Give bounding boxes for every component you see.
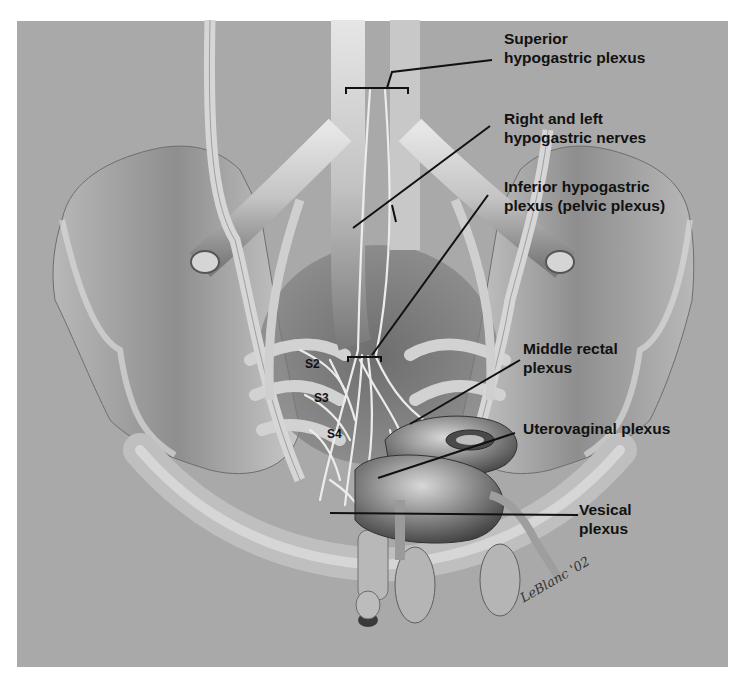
label-line: Middle rectal [523,339,618,358]
left-iliac-vessel-end [191,251,219,273]
label-hypogastric-nerves: Right and left hypogastric nerves [504,109,646,147]
label-line: Uterovaginal plexus [523,419,670,438]
aorta [348,20,355,345]
label-line: plexus [579,519,632,538]
sacral-label-s4: S4 [327,427,342,441]
right-iliac-vessel-end [546,251,574,273]
label-superior-hypogastric-plexus: Superior hypogastric plexus [504,29,645,67]
label-middle-rectal-plexus: Middle rectal plexus [523,339,618,377]
label-line: Vesical [579,500,632,519]
label-line: hypogastric plexus [504,48,645,67]
label-vesical-plexus: Vesical plexus [579,500,632,538]
label-line: Inferior hypogastric [504,177,665,196]
label-line: hypogastric nerves [504,128,646,147]
label-line: plexus (pelvic plexus) [504,196,665,215]
label-inferior-hypogastric-plexus: Inferior hypogastric plexus (pelvic plex… [504,177,665,215]
label-uterovaginal-plexus: Uterovaginal plexus [523,419,670,438]
label-line: Superior [504,29,645,48]
pelvic-anatomy-illustration [0,0,747,676]
pubic-symphysis [358,530,388,600]
label-line: Right and left [504,109,646,128]
sacral-label-s2: S2 [305,357,320,371]
right-ovary [480,544,520,616]
sacral-label-s3: S3 [314,391,329,405]
label-line: plexus [523,358,618,377]
